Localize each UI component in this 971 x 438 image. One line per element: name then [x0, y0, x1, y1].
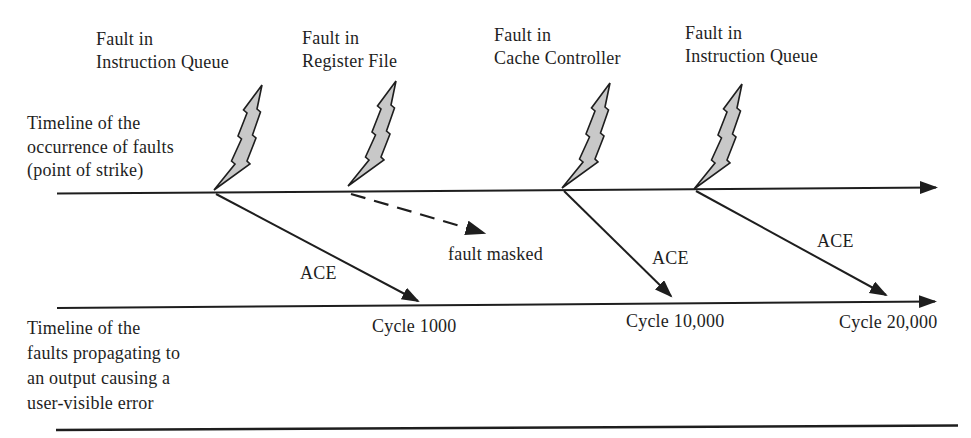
ace-arrow-2: [564, 191, 671, 296]
fault-masked-arrow: [351, 194, 484, 233]
lightning-bolt-icon: [348, 81, 396, 186]
fault-label-3: Fault in Cache Controller: [494, 24, 621, 70]
origin-timeline-label: Timeline of the occurrence of faults (po…: [27, 112, 174, 183]
cycle-label-1: Cycle 1000: [372, 315, 457, 338]
propagation-timeline-label: Timeline of the faults propagating to an…: [27, 316, 180, 416]
cycle-label-2: Cycle 10,000: [626, 310, 724, 333]
ace-label-3: ACE: [817, 230, 854, 253]
propagation-timeline-axis: [57, 302, 935, 309]
origin-timeline-axis: [57, 188, 936, 194]
bottom-rule: [56, 426, 958, 431]
fault-label-2: Fault in Register File: [302, 27, 397, 73]
fault-label-1: Fault in Instruction Queue: [96, 28, 229, 74]
cycle-label-3: Cycle 20,000: [839, 311, 937, 334]
lightning-bolt-icon: [694, 84, 742, 189]
lightning-bolt-icon: [562, 83, 610, 188]
ace-arrow-3: [696, 191, 886, 295]
fault-masked-label: fault masked: [448, 243, 543, 266]
ace-label-2: ACE: [652, 247, 689, 270]
lightning-bolt-icon: [214, 85, 262, 190]
fault-timeline-figure: Fault in Instruction Queue Fault in Regi…: [0, 0, 971, 438]
fault-label-4: Fault in Instruction Queue: [685, 22, 818, 68]
ace-label-1: ACE: [300, 262, 337, 285]
